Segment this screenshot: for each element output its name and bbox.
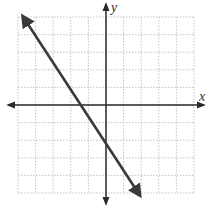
coordinate-plane: y x (0, 0, 212, 208)
plotted-line (23, 17, 139, 195)
x-axis-label: x (198, 89, 206, 104)
y-axis-label: y (109, 0, 118, 15)
